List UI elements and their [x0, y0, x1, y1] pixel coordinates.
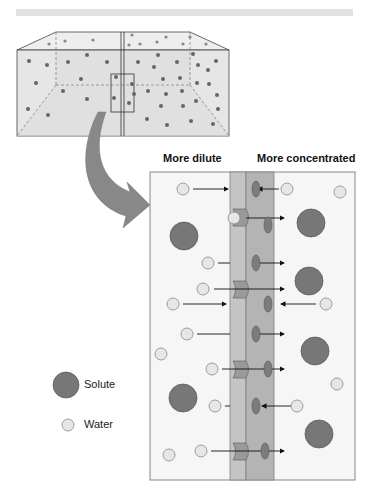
label-more-dilute: More dilute	[163, 152, 222, 164]
legend-water-label: Water	[84, 418, 113, 430]
zoomed-panel	[150, 172, 355, 480]
water-legend-icon	[62, 419, 74, 431]
legend	[53, 372, 79, 431]
container-3d	[17, 32, 229, 136]
label-more-concentrated: More concentrated	[257, 152, 355, 164]
osmosis-diagram	[0, 0, 369, 493]
legend-solute-label: Solute	[84, 378, 115, 390]
solute-legend-icon	[53, 372, 79, 398]
